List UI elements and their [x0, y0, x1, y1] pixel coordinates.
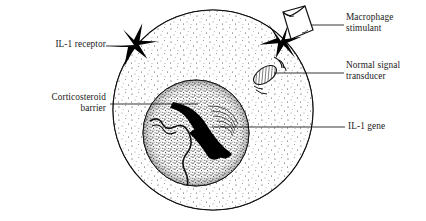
label-il1-gene: IL-1 gene [348, 121, 420, 132]
label-corticosteroid-barrier: Corticosteroid barrier [6, 92, 106, 114]
macrophage-stimulant-shape [283, 6, 313, 39]
label-il1-receptor: IL-1 receptor [14, 39, 106, 50]
label-macrophage-stimulant: Macrophage stimulant [346, 12, 424, 34]
label-normal-signal-transducer: Normal signal transducer [346, 60, 426, 82]
